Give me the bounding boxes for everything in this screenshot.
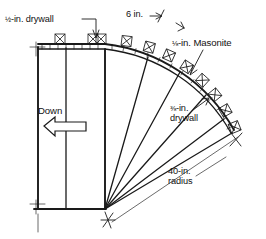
spring-clamp xyxy=(96,34,106,44)
radial-line-2 xyxy=(105,72,180,209)
label-down: Down xyxy=(38,106,62,117)
hollow-block-arrow-left xyxy=(44,117,86,136)
spring-clamp xyxy=(121,35,132,46)
label-top-drywall-text: -in. drywall xyxy=(11,14,54,24)
tick-mark-stray xyxy=(176,22,184,31)
curved-skin-assembly xyxy=(38,44,234,133)
label-masonite-text: -in. Masonite xyxy=(178,37,232,48)
down-direction-arrow xyxy=(44,117,86,136)
figure-root: ½-in. drywall 6 in. ⅛-in. Masonite ⅜-in.… xyxy=(0,0,266,239)
label-side-drywall-unit: -in. xyxy=(176,103,188,113)
leader-radius-pointer xyxy=(196,157,226,176)
label-top-drywall: ½-in. drywall xyxy=(5,14,54,24)
pivot-point-marker xyxy=(101,212,115,228)
spring-clamp xyxy=(143,41,155,53)
label-radius-line2: radius xyxy=(168,176,192,186)
label-side-drywall-line2: drywall xyxy=(170,113,198,123)
spring-clamp xyxy=(55,34,65,44)
radial-line-1 xyxy=(105,57,148,209)
construction-detail-drawing xyxy=(0,0,266,239)
tick-cross-radius-end xyxy=(230,133,242,146)
label-masonite: ⅛-in. Masonite xyxy=(172,38,232,49)
radial-line-4 xyxy=(105,119,224,209)
label-side-drywall-line1: ⅜-in. xyxy=(170,103,198,113)
label-six-in: 6 in. xyxy=(126,9,143,19)
stud-frame xyxy=(30,42,106,232)
drywall-inner-face xyxy=(38,49,231,133)
label-radius: 40-in. radius xyxy=(168,166,192,187)
label-radius-line1: 40-in. xyxy=(168,166,192,176)
label-side-drywall: ⅜-in. drywall xyxy=(170,103,198,124)
masonite-outer-face xyxy=(38,44,234,130)
spring-clamp xyxy=(162,49,175,62)
